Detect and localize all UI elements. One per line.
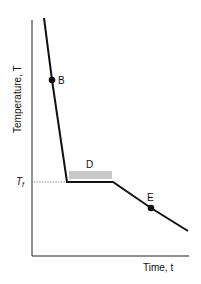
- tf-label-sub: f: [22, 181, 25, 188]
- region-d-label: D: [86, 159, 93, 170]
- point-e-marker: [148, 205, 155, 212]
- tf-label: Tf: [16, 176, 25, 188]
- region-d-shade: [69, 171, 112, 179]
- cooling-curve-line: [44, 18, 188, 231]
- cooling-curve-chart: B D E Tf Time, t Temperature, T: [0, 0, 201, 284]
- point-e-label: E: [147, 192, 154, 203]
- point-b-marker: [49, 77, 56, 84]
- y-axis-label: Temperature, T: [12, 65, 23, 133]
- point-b-label: B: [58, 75, 65, 86]
- x-axis-label: Time, t: [143, 262, 173, 273]
